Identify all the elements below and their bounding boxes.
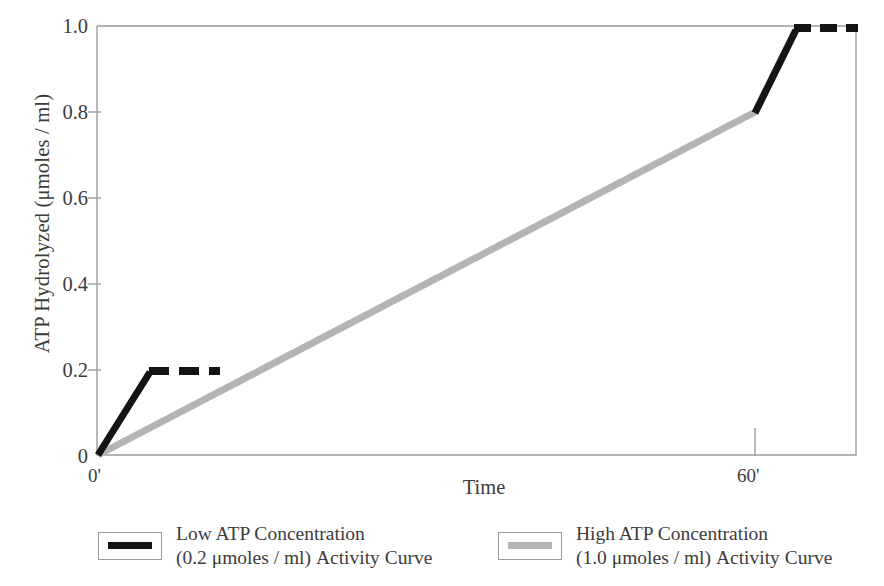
legend-label-high-atp-line1: High ATP Concentration bbox=[576, 523, 768, 544]
chart-figure: ATP Hydrolyzed (μmoles / ml) 1.0 0.8 0.6… bbox=[0, 0, 884, 586]
axis-frame bbox=[97, 26, 856, 455]
legend-label-low-atp: Low ATP Concentration (0.2 μmoles / ml) … bbox=[176, 522, 432, 570]
legend-item-low-atp[interactable]: Low ATP Concentration (0.2 μmoles / ml) … bbox=[98, 522, 432, 570]
series-high-atp-rise bbox=[755, 30, 796, 113]
plot-area bbox=[0, 0, 884, 586]
series-high-atp-solid bbox=[98, 31, 795, 455]
legend-label-low-atp-line2: (0.2 μmoles / ml) Activity Curve bbox=[176, 546, 432, 570]
y-axis-ticks bbox=[88, 112, 101, 370]
legend-label-low-atp-line1: Low ATP Concentration bbox=[176, 523, 365, 544]
legend-swatch-gray-line-icon bbox=[498, 532, 562, 560]
legend-swatch-black-line-icon bbox=[98, 532, 162, 560]
chart-legend: Low ATP Concentration (0.2 μmoles / ml) … bbox=[0, 518, 884, 586]
legend-label-high-atp-line2: (1.0 μmoles / ml) Activity Curve bbox=[576, 546, 832, 570]
legend-label-high-atp: High ATP Concentration (1.0 μmoles / ml)… bbox=[576, 522, 832, 570]
legend-item-high-atp[interactable]: High ATP Concentration (1.0 μmoles / ml)… bbox=[498, 522, 832, 570]
